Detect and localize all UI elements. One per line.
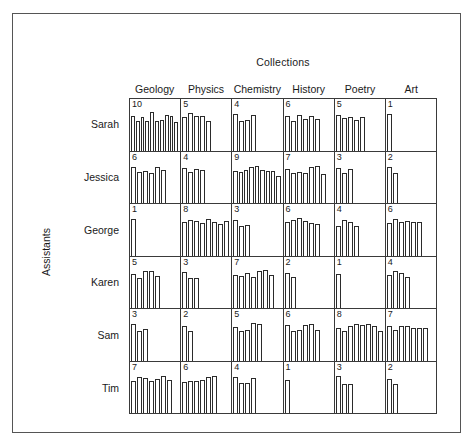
- bar: [354, 120, 359, 151]
- bar: [348, 117, 353, 150]
- bar: [417, 328, 422, 360]
- panel-count-label: 2: [183, 309, 188, 319]
- panel-row-tim: 764132: [130, 362, 436, 414]
- panel-jessica-art[interactable]: 2: [386, 152, 436, 204]
- panel-george-chemistry[interactable]: 3: [232, 204, 283, 256]
- bar: [245, 120, 250, 151]
- bar: [233, 275, 238, 308]
- bar: [336, 168, 341, 203]
- panel-jessica-history[interactable]: 7: [284, 152, 335, 204]
- panel-karen-art[interactable]: 4: [386, 257, 436, 309]
- bar: [245, 330, 250, 361]
- bar: [315, 119, 320, 151]
- bar: [336, 274, 341, 308]
- bar-group: [233, 214, 281, 256]
- bar: [155, 276, 160, 308]
- panel-george-art[interactable]: 6: [386, 204, 436, 256]
- bar-group: [285, 372, 333, 414]
- bar: [137, 278, 142, 308]
- bar: [387, 379, 392, 413]
- panel-tim-physics[interactable]: 6: [181, 362, 232, 414]
- panel-jessica-physics[interactable]: 4: [181, 152, 232, 204]
- bar: [182, 222, 187, 255]
- bar: [206, 219, 211, 256]
- bar: [291, 121, 296, 151]
- panel-george-physics[interactable]: 8: [181, 204, 232, 256]
- panel-tim-poetry[interactable]: 3: [335, 362, 386, 414]
- bar: [393, 219, 398, 256]
- panel-karen-chemistry[interactable]: 7: [232, 257, 283, 309]
- panel-count-label: 7: [286, 152, 291, 162]
- panel-sarah-poetry[interactable]: 5: [335, 99, 386, 151]
- panel-george-history[interactable]: 6: [284, 204, 335, 256]
- bar: [285, 273, 290, 308]
- panel-tim-art[interactable]: 2: [386, 362, 436, 414]
- bar: [366, 324, 371, 361]
- bar: [149, 173, 154, 203]
- panel-jessica-chemistry[interactable]: 9: [232, 152, 283, 204]
- panel-sam-physics[interactable]: 2: [181, 309, 232, 361]
- bar: [399, 326, 404, 361]
- bar: [285, 380, 290, 413]
- bar: [174, 122, 178, 150]
- panel-sam-chemistry[interactable]: 5: [232, 309, 283, 361]
- panel-sarah-physics[interactable]: 5: [181, 99, 232, 151]
- bar: [233, 327, 238, 360]
- bar: [291, 277, 296, 308]
- panel-sarah-chemistry[interactable]: 4: [232, 99, 283, 151]
- panel-sam-geology[interactable]: 3: [130, 309, 181, 361]
- bar: [131, 116, 135, 150]
- bar: [194, 116, 199, 150]
- panel-george-poetry[interactable]: 4: [335, 204, 386, 256]
- bar: [348, 384, 353, 413]
- panel-count-label: 6: [183, 362, 188, 372]
- panel-sam-art[interactable]: 7: [386, 309, 436, 361]
- bar: [387, 114, 392, 151]
- panel-sarah-history[interactable]: 6: [284, 99, 335, 151]
- bar: [137, 172, 142, 203]
- panel-george-geology[interactable]: 1: [130, 204, 181, 256]
- panel-count-label: 4: [234, 99, 239, 109]
- bar: [393, 330, 398, 361]
- panel-sarah-art[interactable]: 1: [386, 99, 436, 151]
- bar-group: [233, 267, 281, 309]
- panel-count-label: 4: [183, 152, 188, 162]
- panel-tim-chemistry[interactable]: 4: [232, 362, 283, 414]
- bar: [342, 173, 347, 203]
- panel-karen-poetry[interactable]: 1: [335, 257, 386, 309]
- panel-sam-history[interactable]: 6: [284, 309, 335, 361]
- panel-karen-physics[interactable]: 3: [181, 257, 232, 309]
- panel-karen-geology[interactable]: 5: [130, 257, 181, 309]
- panel-count-label: 6: [388, 204, 393, 214]
- bar: [239, 276, 244, 308]
- panel-count-label: 2: [388, 362, 393, 372]
- bar: [182, 382, 187, 413]
- bar: [233, 377, 238, 413]
- bar: [136, 121, 140, 151]
- panel-karen-history[interactable]: 2: [284, 257, 335, 309]
- panel-tim-history[interactable]: 1: [284, 362, 335, 414]
- panel-row-george: 183646: [130, 204, 436, 257]
- panel-tim-geology[interactable]: 7: [130, 362, 181, 414]
- panel-count-label: 5: [234, 309, 239, 319]
- y-axis-label: Assistants: [40, 192, 52, 312]
- panel-sarah-geology[interactable]: 10: [130, 99, 181, 151]
- bar: [291, 331, 296, 361]
- panel-count-label: 7: [234, 257, 239, 267]
- bar: [239, 226, 244, 256]
- bar-group: [336, 267, 384, 309]
- panel-jessica-geology[interactable]: 6: [130, 152, 181, 204]
- bar: [417, 222, 422, 255]
- bar: [165, 115, 169, 151]
- bar: [285, 116, 290, 150]
- panel-sam-poetry[interactable]: 8: [335, 309, 386, 361]
- bar: [170, 116, 174, 151]
- bar-group: [182, 267, 230, 309]
- bar: [161, 170, 166, 203]
- bar: [251, 115, 256, 151]
- bar: [303, 325, 308, 361]
- bar: [354, 226, 359, 255]
- bar: [321, 174, 326, 203]
- bar: [405, 326, 410, 360]
- panel-jessica-poetry[interactable]: 3: [335, 152, 386, 204]
